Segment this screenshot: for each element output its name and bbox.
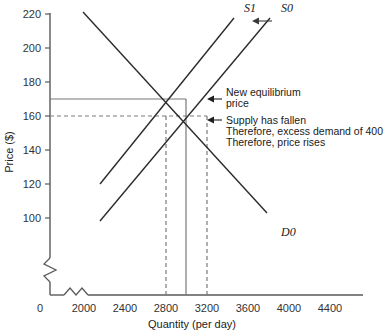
y-axis-break-icon [44,258,56,282]
chart-canvas: 220 200 180 160 140 120 100 Price ($) 0 … [0,0,385,333]
demand-curve-d0 [83,12,267,213]
y-tick-label-180: 180 [23,76,41,88]
annotation-arrow-supply-fallen-head [207,117,214,124]
y-axis-ticks [45,14,50,218]
y-axis-tick-labels: 220 200 180 160 140 120 100 [23,8,41,224]
y-axis-title: Price ($) [3,131,15,173]
y-tick-label-220: 220 [23,8,41,20]
annotation-price-rises: Therefore, price rises [226,136,325,148]
y-tick-label-160: 160 [23,110,41,122]
curve-label-s0: S0 [281,1,293,15]
x-tick-label-4400: 4400 [318,302,342,314]
x-tick-label-0: 0 [37,302,43,314]
curve-label-d0: D0 [280,225,296,239]
x-tick-label-3600: 3600 [236,302,260,314]
x-tick-label-2000: 2000 [72,302,96,314]
y-tick-label-140: 140 [23,144,41,156]
supply-shift-arrow-head [252,18,259,25]
x-tick-label-2800: 2800 [154,302,178,314]
x-axis-tick-labels: 0 2000 2400 2800 3200 3600 4000 4400 [37,302,342,314]
x-tick-label-3200: 3200 [195,302,219,314]
annotation-arrow-new-eq-head [207,96,214,103]
supply-demand-chart: 220 200 180 160 140 120 100 Price ($) 0 … [0,0,385,333]
annotation-arrow-new-equilibrium [207,96,222,103]
annotation-arrow-supply-fallen [207,117,222,124]
y-tick-label-100: 100 [23,212,41,224]
y-tick-label-120: 120 [23,178,41,190]
x-axis-break-icon [64,288,88,295]
annotation-text-group: New equilibrium price Supply has fallen … [226,86,383,148]
annotation-new-equilibrium-line2: price [226,97,249,109]
x-tick-label-4000: 4000 [277,302,301,314]
x-axis-title: Quantity (per day) [148,318,236,330]
curve-label-s1: S1 [244,1,256,15]
y-tick-label-200: 200 [23,42,41,54]
x-tick-label-2400: 2400 [113,302,137,314]
